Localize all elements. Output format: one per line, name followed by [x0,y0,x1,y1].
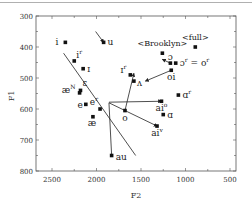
x-tick-label: 2500 [43,176,61,184]
y-tick-label: 800 [20,168,33,176]
y-tick-label: 300 [20,13,33,21]
point-label: er [90,95,98,107]
point-label: au [116,152,127,162]
trajectory-line [109,103,112,156]
x-axis-title: F2 [131,191,142,200]
point-label: oi [167,72,175,82]
data-point: ɔr = or [174,56,209,68]
point-label: o [122,113,127,123]
trajectory-line [109,103,157,126]
data-point: ʌ [132,78,143,88]
data-point: oi [167,68,175,82]
point-label: ɪ [87,64,90,74]
point-marker [161,51,165,55]
point-label: i [55,37,58,47]
point-marker [110,154,114,158]
point-marker [132,79,136,83]
point-marker [177,93,181,97]
point-label: ir [76,48,82,60]
point-marker [98,107,102,111]
data-point: ɪ [81,64,90,74]
point-marker [102,41,106,45]
data-point: aiv [151,124,163,138]
data-point: ɪr [121,63,133,77]
point-label: ɑr [182,88,191,100]
data-points: iirɪɛæNeeræuɪrʌoauɔɔr = oroiɑraioɑaiv<Br… [55,33,209,162]
x-tick-label: 1000 [177,176,195,184]
data-point: æN [62,83,82,95]
data-point: ɛ [79,78,88,92]
trajectory-line [109,101,162,102]
y-tick-label: 600 [20,106,33,114]
point-label: ɑ [167,110,173,120]
point-label: aiv [151,126,163,138]
point-marker [81,67,85,71]
y-tick-label: 700 [20,137,33,145]
point-label: ʌ [136,78,143,88]
point-label: e [77,100,82,110]
data-point: <Brooklyn> [137,39,187,55]
data-point: ɔ [168,52,173,65]
point-marker [78,91,82,95]
point-label: <full> [182,33,209,42]
point-label: <Brooklyn> [137,39,187,48]
data-point: er [90,95,102,111]
point-marker [64,41,68,45]
point-label: æ [88,118,96,128]
point-label: ɔ [168,52,173,62]
data-point: i [55,37,67,47]
y-tick-label: 400 [20,44,33,52]
point-label: u [108,37,114,47]
data-point: o [122,109,127,123]
trajectory-line [125,73,134,110]
point-label: ɔr = or [180,56,210,68]
data-point: ir [72,48,82,63]
data-point: e [77,100,87,110]
point-marker [174,61,178,65]
point-marker [193,45,197,49]
data-point: æ [88,115,96,128]
point-marker [129,73,133,77]
point-marker [84,103,88,107]
data-point: u [102,37,114,47]
x-tick-label: 1500 [132,176,150,184]
point-label: aio [156,101,168,113]
x-tick-label: 500 [223,176,236,184]
y-tick-label: 500 [20,75,33,83]
point-marker [161,113,165,117]
point-label: æN [62,83,76,95]
x-tick-label: 2000 [88,176,106,184]
point-label: ɪr [121,63,127,75]
data-point: ɑr [177,88,192,100]
point-label: ɛ [82,78,87,88]
y-axis-title: F1 [7,91,16,102]
data-point: au [110,152,127,162]
vowel-formant-chart: 2500200015001000500300400500600700800 ii… [0,0,252,204]
